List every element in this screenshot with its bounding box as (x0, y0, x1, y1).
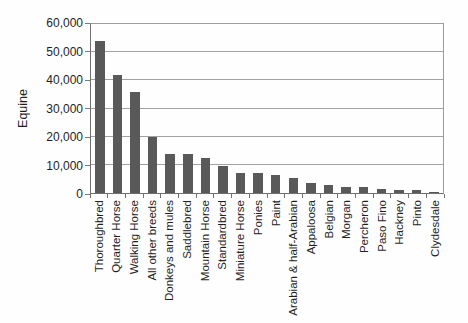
x-label-slot: Donkeys and mules (161, 200, 179, 320)
equine-bar-chart: Equine 010,00020,00030,00040,00050,00060… (0, 0, 468, 323)
bar-13 (324, 185, 334, 193)
bar-slot (232, 24, 250, 193)
bar-15 (359, 187, 369, 193)
x-tick-label: Saddlebred (181, 200, 194, 259)
x-label-slot: Morgan (338, 200, 356, 320)
x-tick-label: Belgian (323, 200, 336, 238)
bar-slot (179, 24, 197, 193)
x-tick-mark (390, 194, 391, 198)
bar-slot (408, 24, 426, 193)
bar-slot (337, 24, 355, 193)
bar-12 (306, 183, 316, 193)
bar-slot (144, 24, 162, 193)
bar-slot (126, 24, 144, 193)
x-tick-label: Donkeys and mules (163, 200, 176, 301)
y-axis-tick-labels: 010,00020,00030,00040,00050,00060,000 (0, 23, 83, 194)
x-axis-labels: ThoroughbredQuarter HorseWalking HorseAl… (90, 200, 444, 320)
x-tick-label: Percheron (358, 200, 371, 253)
x-label-slot: All other breeds (143, 200, 161, 320)
x-tick-label: Paso Fino (376, 200, 389, 252)
x-tick-mark (284, 194, 285, 198)
x-label-slot: Arabian & half-Arabian (285, 200, 303, 320)
bars-container (91, 24, 443, 193)
x-tick-label: Paint (270, 200, 283, 226)
x-tick-mark (320, 194, 321, 198)
bar-slot (320, 24, 338, 193)
bar-2 (130, 92, 140, 193)
x-tick-mark (408, 194, 409, 198)
bar-6 (201, 158, 211, 193)
bar-slot (355, 24, 373, 193)
x-tick-mark (267, 194, 268, 198)
x-tick-label: Ponies (252, 200, 265, 235)
x-tick-mark (373, 194, 374, 198)
x-label-slot: Percheron (356, 200, 374, 320)
x-label-slot: Appaloosa (302, 200, 320, 320)
x-label-slot: Hackney (391, 200, 409, 320)
bar-11 (289, 178, 299, 193)
plot-area (90, 23, 444, 194)
x-tick-mark (444, 194, 445, 198)
y-tick-label: 30,000 (46, 103, 83, 115)
y-tick-label: 60,000 (46, 17, 83, 29)
x-label-slot: Standardbred (214, 200, 232, 320)
x-tick-mark (178, 194, 179, 198)
x-tick-mark (196, 194, 197, 198)
bar-slot (197, 24, 215, 193)
bar-slot (285, 24, 303, 193)
x-tick-label: Standardbred (216, 200, 229, 270)
x-tick-mark (231, 194, 232, 198)
x-tick-label: Pinto (411, 200, 424, 226)
y-tick-label: 20,000 (46, 131, 83, 143)
x-label-slot: Ponies (249, 200, 267, 320)
bar-slot (249, 24, 267, 193)
x-axis-tick-marks (90, 194, 444, 198)
x-label-slot: Thoroughbred (90, 200, 108, 320)
bar-18 (412, 190, 422, 193)
x-label-slot: Clydesdale (426, 200, 444, 320)
x-tick-label: Thoroughbred (93, 200, 106, 272)
x-tick-mark (355, 194, 356, 198)
x-tick-mark (90, 194, 91, 198)
x-tick-label: Quarter Horse (110, 200, 123, 273)
x-tick-label: All other breeds (146, 200, 159, 281)
x-tick-mark (213, 194, 214, 198)
x-tick-mark (302, 194, 303, 198)
x-label-slot: Mountain Horse (196, 200, 214, 320)
bar-7 (218, 166, 228, 193)
bar-0 (95, 41, 105, 193)
x-tick-mark (125, 194, 126, 198)
bar-slot (425, 24, 443, 193)
bar-slot (390, 24, 408, 193)
x-tick-label: Walking Horse (128, 200, 141, 274)
bar-3 (148, 137, 158, 193)
x-label-slot: Paso Fino (373, 200, 391, 320)
y-tick-label: 50,000 (46, 46, 83, 58)
x-label-slot: Walking Horse (125, 200, 143, 320)
x-label-slot: Quarter Horse (108, 200, 126, 320)
x-tick-label: Arabian & half-Arabian (287, 200, 300, 316)
bar-8 (236, 173, 246, 193)
x-label-slot: Belgian (320, 200, 338, 320)
x-tick-label: Clydesdale (429, 200, 442, 257)
bar-5 (183, 154, 193, 193)
bar-slot (91, 24, 109, 193)
bar-slot (161, 24, 179, 193)
bar-17 (394, 190, 404, 193)
x-label-slot: Saddlebred (179, 200, 197, 320)
bar-slot (267, 24, 285, 193)
x-tick-label: Hackney (393, 200, 406, 245)
bar-4 (165, 154, 175, 193)
x-tick-label: Mountain Horse (199, 200, 212, 281)
x-tick-label: Morgan (340, 200, 353, 239)
x-tick-mark (107, 194, 108, 198)
bar-16 (377, 189, 387, 193)
bar-19 (429, 192, 439, 193)
x-label-slot: Pinto (409, 200, 427, 320)
bar-slot (302, 24, 320, 193)
x-label-slot: Paint (267, 200, 285, 320)
x-tick-label: Appaloosa (305, 200, 318, 254)
y-tick-label: 0 (76, 188, 83, 200)
x-tick-mark (249, 194, 250, 198)
bar-slot (373, 24, 391, 193)
